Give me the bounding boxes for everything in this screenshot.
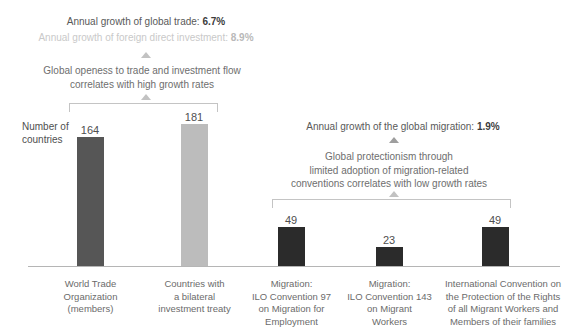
bar-value-2: 49 [264,214,318,226]
x-axis-label-4: International Convention on the Protecti… [432,278,574,328]
x-axis-label-2-line1: Migration: [239,278,344,291]
bar-1 [181,124,208,266]
x-axis-label-4-line2: the Protection of the Rights [432,291,574,304]
bar-2 [278,227,305,266]
x-axis-label-1-line3: investment treaty [141,303,248,316]
x-axis-label-3-line4: Workers [336,316,443,329]
bar-4 [482,227,509,266]
x-axis-label-1-line1: Countries with [141,278,248,291]
x-axis-label-0-line1: World Trade [40,278,141,291]
x-axis-label-1: Countries with a bilateral investment tr… [141,278,248,316]
x-axis-label-3: Migration: ILO Convention 143 on Migrant… [336,278,443,328]
plot-area: 164 181 49 23 49 [0,0,574,266]
x-axis-label-2-line2: ILO Convention 97 [239,291,344,304]
bar-value-3: 23 [362,234,416,246]
bar-value-0: 164 [63,124,117,136]
x-axis-label-4-line1: International Convention on [432,278,574,291]
x-axis-label-0: World Trade Organization (members) [40,278,141,316]
x-axis-label-3-line2: ILO Convention 143 [336,291,443,304]
x-axis-label-1-line2: a bilateral [141,291,248,304]
x-axis-label-0-line3: (members) [40,303,141,316]
bar-value-1: 181 [167,111,221,123]
bar-3 [376,247,403,266]
bar-value-4: 49 [468,214,522,226]
x-axis-label-2-line3: on Migration for [239,303,344,316]
x-axis-baseline [28,266,560,267]
x-axis-label-2: Migration: ILO Convention 97 on Migratio… [239,278,344,328]
x-axis-label-4-line3: of all Migrant Workers and [432,303,574,316]
x-axis-label-0-line2: Organization [40,291,141,304]
bar-0 [77,137,104,266]
infographic-chart: Annual growth of global trade: 6.7% Annu… [0,0,574,336]
x-axis-label-4-line4: Members of their families [432,316,574,329]
x-axis-label-2-line4: Employment [239,316,344,329]
x-axis-label-3-line3: on Migrant [336,303,443,316]
x-axis-label-3-line1: Migration: [336,278,443,291]
